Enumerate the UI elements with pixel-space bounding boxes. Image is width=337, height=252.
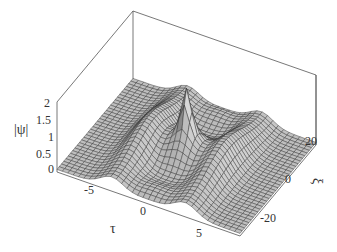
y-axis-title: ξ: [310, 178, 324, 184]
z-tick-label: 1: [48, 131, 54, 143]
z-axis-title: |ψ|: [14, 123, 28, 137]
x-tick-label: 5: [196, 227, 202, 239]
surface-mesh: [57, 78, 316, 233]
z-tick-label: 0.5: [36, 148, 51, 160]
y-tick-label: 0: [285, 173, 291, 185]
y-tick-label: 20: [305, 135, 317, 147]
x-axis-title: τ: [110, 222, 116, 236]
x-tick-label: -5: [84, 184, 94, 196]
z-tick-label: 1.5: [36, 114, 51, 126]
y-tick-label: -20: [260, 212, 276, 224]
x-tick-label: 0: [140, 205, 146, 217]
z-tick-label: 2: [44, 97, 50, 109]
z-tick-label: 0: [48, 163, 54, 175]
